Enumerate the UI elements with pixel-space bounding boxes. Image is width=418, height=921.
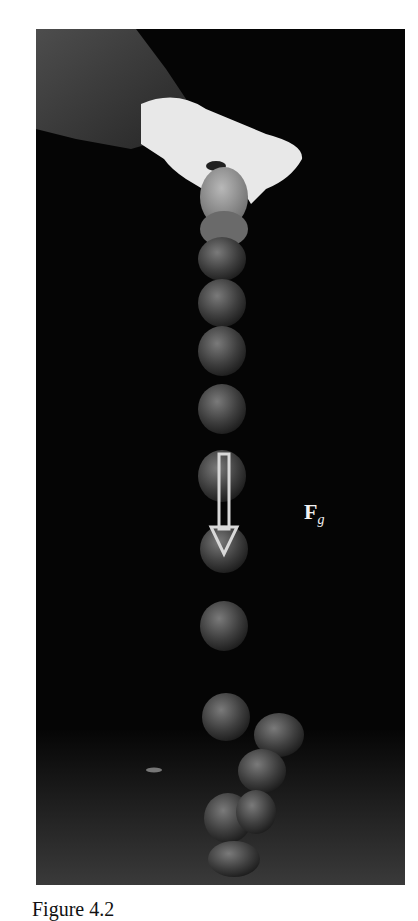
strobe-apple-illustration [36,29,405,885]
figure-caption: Figure 4.2 [32,898,114,921]
figure-photo: Fg [36,29,405,885]
force-label: Fg [304,499,324,528]
